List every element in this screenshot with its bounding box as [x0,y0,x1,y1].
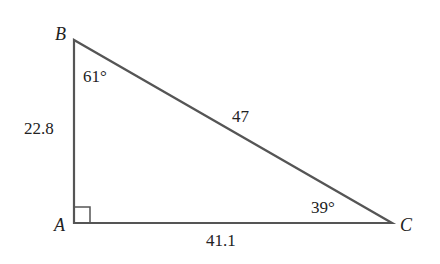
vertex-label-a: A [54,216,65,234]
angle-label-c: 39° [311,199,335,216]
vertex-label-c: C [400,216,412,234]
side-label-bc: 47 [232,108,249,125]
vertex-label-b: B [55,25,66,43]
side-label-ab: 22.8 [24,120,54,137]
side-label-ac: 41.1 [206,232,236,249]
triangle-abc [74,40,392,223]
triangle-diagram [0,0,440,264]
right-angle-marker [74,207,90,223]
angle-label-b: 61° [83,68,107,85]
